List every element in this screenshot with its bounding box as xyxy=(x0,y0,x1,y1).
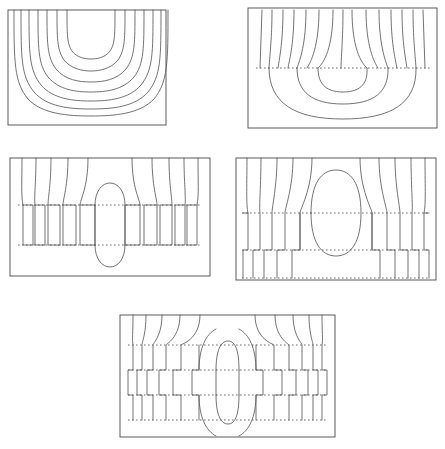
panel-3-plot xyxy=(0,150,222,290)
panel-1-plot xyxy=(0,0,180,140)
panel-4-plot xyxy=(228,150,445,295)
panel-3-contours xyxy=(22,158,199,267)
panel-5-contours xyxy=(128,315,327,436)
panel-3 xyxy=(0,150,222,290)
panel-2-upper-contours xyxy=(260,10,425,68)
panel-4-frame xyxy=(236,158,436,280)
panel-5 xyxy=(105,305,350,449)
panel-4-contours xyxy=(243,158,429,278)
panel-1 xyxy=(0,0,180,140)
figure-canvas xyxy=(0,0,445,449)
panel-2-plot xyxy=(228,0,445,140)
panel-4 xyxy=(228,150,445,295)
panel-2 xyxy=(228,0,445,140)
panel-5-plot xyxy=(105,305,350,449)
panel-1-contours xyxy=(14,10,168,116)
panel-2-lower-arcs xyxy=(269,68,416,119)
panel-3-frame xyxy=(10,158,210,276)
panel-5-frame xyxy=(120,315,335,437)
